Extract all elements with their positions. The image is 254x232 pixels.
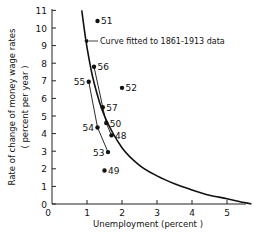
point-marker-icon: [87, 79, 91, 83]
curve-annotation: Curve fitted to 1861-1913 data: [84, 37, 225, 46]
data-point: 55: [74, 77, 91, 87]
x-tick-label: 5: [224, 208, 230, 218]
y-ticks: 01234567891011: [36, 6, 56, 210]
y-tick-label: 5: [41, 112, 47, 122]
y-axis-title: Rate of change of money wage rates: [7, 28, 17, 186]
x-tick-label: 3: [154, 208, 160, 218]
y-axis-subtitle: ( percent per year ): [20, 65, 30, 148]
point-label: 51: [101, 16, 112, 26]
x-ticks: 012345: [45, 200, 230, 218]
y-tick-label: 7: [41, 76, 47, 86]
x-tick-label: 4: [189, 208, 195, 218]
phillips-curve-chart: 01234567891011 012345 484950515253545556…: [0, 0, 254, 232]
y-tick-label: 6: [41, 94, 47, 104]
y-tick-label: 1: [41, 182, 47, 192]
point-label: 50: [110, 119, 122, 129]
x-tick-label: 2: [119, 208, 125, 218]
y-tick-label: 3: [41, 147, 47, 157]
point-marker-icon: [95, 19, 99, 23]
y-tick-label: 8: [41, 59, 47, 69]
point-label: 54: [83, 123, 95, 133]
point-marker-icon: [109, 133, 113, 137]
point-label: 57: [106, 103, 117, 113]
x-axis-title: Unemployment (percent ): [93, 219, 203, 229]
x-tick-label: 1: [84, 208, 90, 218]
point-label: 55: [74, 77, 85, 87]
data-point: 53: [93, 148, 110, 158]
point-marker-icon: [101, 105, 105, 109]
point-label: 53: [93, 148, 104, 158]
point-marker-icon: [106, 150, 110, 154]
point-marker-icon: [102, 168, 106, 172]
point-label: 56: [98, 62, 110, 72]
point-label: 52: [126, 83, 137, 93]
point-marker-icon: [120, 86, 124, 90]
data-point: 52: [120, 83, 137, 93]
point-label: 48: [115, 131, 127, 141]
y-tick-label: 9: [41, 41, 47, 51]
point-marker-icon: [104, 121, 108, 125]
y-tick-label: 11: [36, 6, 47, 16]
data-point: 49: [102, 166, 119, 176]
point-label: 49: [108, 166, 120, 176]
y-tick-label: 2: [41, 164, 47, 174]
x-tick-label: 0: [45, 208, 51, 218]
point-marker-icon: [95, 125, 99, 129]
annotation-text: Curve fitted to 1861-1913 data: [100, 37, 225, 46]
data-point: 51: [95, 16, 112, 26]
y-tick-label: 10: [36, 24, 48, 34]
y-tick-label: 4: [41, 129, 47, 139]
point-marker-icon: [92, 65, 96, 69]
